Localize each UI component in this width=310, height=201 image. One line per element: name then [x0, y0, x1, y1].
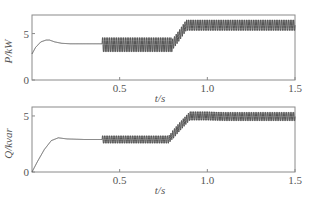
x-tick-label: 1.5: [288, 82, 302, 94]
q-series-line: [32, 112, 295, 172]
x-tick-label: 1.5: [288, 174, 302, 186]
x-axis-label: t/s: [155, 92, 165, 104]
y-axis-label: P/kW: [2, 39, 14, 65]
x-axis-label: t/s: [155, 184, 165, 196]
power-reactive-plot: 0.51.01.505t/sQ/kvar: [2, 107, 302, 196]
x-tick-label: 0.5: [113, 174, 127, 186]
y-axis-label: Q/kvar: [2, 128, 14, 159]
x-tick-label: 1.0: [200, 82, 214, 94]
p-series-line: [32, 20, 295, 54]
x-tick-label: 1.0: [200, 174, 214, 186]
chart-canvas: 0.51.01.505t/sP/kW 0.51.01.505t/sQ/kvar: [0, 0, 310, 201]
y-tick-label: 0: [24, 74, 30, 86]
power-active-plot: 0.51.01.505t/sP/kW: [2, 15, 302, 104]
x-tick-label: 0.5: [113, 82, 127, 94]
y-tick-label: 5: [24, 28, 30, 40]
y-tick-label: 5: [24, 110, 30, 122]
y-tick-label: 0: [24, 166, 30, 178]
